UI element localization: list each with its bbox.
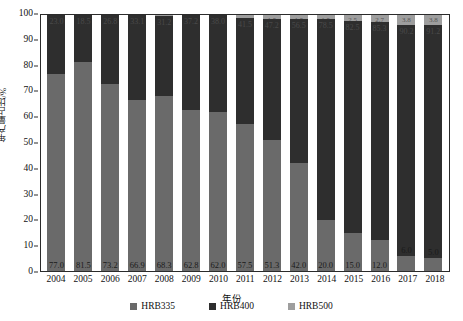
x-tick-label-2004: 2004 — [47, 274, 65, 290]
bar-segment-HRB400-2014: 78.5 — [317, 19, 335, 220]
bar-segment-HRB400-2005: 18.5 — [74, 15, 92, 62]
bar-value-label-HRB400-2010: 38.0 — [211, 18, 225, 26]
legend-item-HRB400[interactable]: HRB400 — [209, 301, 254, 311]
bar-value-label-HRB400-2008: 31.2 — [157, 19, 171, 27]
y-tick-label-60: 60 — [24, 112, 34, 122]
bar-value-label-HRB400-2011: 41.5 — [238, 21, 252, 29]
bar-segment-HRB335-2016: 12.0 — [371, 240, 389, 271]
legend-item-HRB335[interactable]: HRB335 — [130, 301, 175, 311]
bar-value-label-HRB400-2012: 47.2 — [265, 22, 279, 30]
bar-segment-HRB400-2018: 91.2 — [424, 25, 442, 258]
bar-value-label-HRB335-2018: 5.0 — [428, 248, 439, 256]
y-tick-mark-90 — [34, 39, 38, 40]
x-tick-label-2006: 2006 — [101, 274, 119, 290]
legend-swatch-icon-HRB335 — [130, 303, 137, 310]
y-tick-mark-0 — [34, 272, 38, 273]
x-tick-label-2016: 2016 — [371, 274, 389, 290]
y-tick-mark-100 — [34, 14, 38, 15]
bar-column-2014[interactable]: 1.578.520.0 — [317, 15, 335, 271]
legend-label-HRB500: HRB500 — [299, 301, 333, 311]
bar-segment-HRB400-2008: 31.2 — [155, 16, 173, 96]
bar-segment-HRB400-2007: 33.1 — [128, 15, 146, 100]
bar-segment-HRB335-2006: 73.2 — [101, 84, 119, 271]
bar-value-label-HRB335-2015: 15.0 — [345, 261, 360, 269]
bar-segment-HRB400-2006: 26.8 — [101, 15, 119, 84]
bar-segment-HRB400-2017: 90.2 — [397, 25, 415, 256]
y-tick-mark-10 — [34, 246, 38, 247]
x-axis-ticks: 2004200520062007200820092010201120122013… — [40, 274, 450, 290]
bar-segment-HRB400-2011: 41.5 — [236, 18, 254, 124]
x-tick-label-2010: 2010 — [209, 274, 227, 290]
y-tick-label-30: 30 — [24, 190, 34, 200]
bar-column-2005[interactable]: 018.581.5 — [74, 15, 92, 271]
x-tick-label-2015: 2015 — [344, 274, 362, 290]
bar-column-2017[interactable]: 3.890.26.0 — [397, 15, 415, 271]
y-axis-ticks: 0102030405060708090100 — [0, 14, 38, 272]
bar-segment-HRB400-2015: 82.5 — [344, 21, 362, 232]
y-tick-mark-80 — [34, 65, 38, 66]
bar-value-label-HRB400-2004: 23.0 — [49, 18, 63, 26]
bar-value-label-HRB400-2009: 37.2 — [184, 18, 198, 26]
x-tick-label-2018: 2018 — [425, 274, 443, 290]
bar-value-label-HRB335-2006: 73.2 — [103, 261, 118, 269]
bar-column-2008[interactable]: 0.531.268.3 — [155, 15, 173, 271]
bar-value-label-HRB335-2016: 12.0 — [372, 261, 387, 269]
bar-segment-HRB335-2017: 6.0 — [397, 256, 415, 271]
bar-column-2010[interactable]: 038.062.0 — [209, 15, 227, 271]
y-tick-label-80: 80 — [24, 61, 34, 71]
bar-segment-HRB335-2005: 81.5 — [74, 62, 92, 271]
legend-label-HRB335: HRB335 — [141, 301, 175, 311]
bar-segment-HRB500-2016: 2.7 — [371, 15, 389, 22]
y-tick-label-10: 10 — [24, 241, 34, 251]
x-tick-label-2009: 2009 — [182, 274, 200, 290]
legend-swatch-icon-HRB400 — [209, 303, 216, 310]
y-tick-label-100: 100 — [19, 9, 33, 19]
bar-segment-HRB335-2004: 77.0 — [47, 74, 65, 271]
bar-value-label-HRB400-2007: 33.1 — [130, 18, 144, 26]
bar-segment-HRB400-2016: 85.3 — [371, 22, 389, 240]
bar-value-label-HRB400-2013: 56.5 — [292, 22, 306, 30]
bar-column-2004[interactable]: 023.077.0 — [47, 15, 65, 271]
bar-segment-HRB400-2012: 47.2 — [263, 19, 281, 140]
x-tick-label-2017: 2017 — [398, 274, 416, 290]
bar-column-2016[interactable]: 2.785.312.0 — [371, 15, 389, 271]
bar-column-2009[interactable]: 037.262.8 — [182, 15, 200, 271]
plot-area: 023.077.0018.581.5026.873.2033.166.90.53… — [40, 14, 450, 272]
y-tick-label-90: 90 — [24, 35, 34, 45]
bar-segment-HRB400-2010: 38.0 — [209, 15, 227, 112]
bar-column-2015[interactable]: 2.582.515.0 — [344, 15, 362, 271]
bar-value-label-HRB335-2013: 42.0 — [291, 261, 306, 269]
x-tick-label-2007: 2007 — [128, 274, 146, 290]
legend-item-HRB500[interactable]: HRB500 — [288, 301, 333, 311]
x-tick-label-2011: 2011 — [236, 274, 254, 290]
bar-column-2007[interactable]: 033.166.9 — [128, 15, 146, 271]
bar-column-2011[interactable]: 1.041.557.5 — [236, 15, 254, 271]
bar-segment-HRB500-2018: 3.8 — [424, 15, 442, 25]
bar-value-label-HRB335-2005: 81.5 — [76, 261, 91, 269]
bar-value-label-HRB400-2015: 82.5 — [346, 24, 360, 32]
bar-value-label-HRB335-2008: 68.3 — [157, 261, 172, 269]
bar-column-2006[interactable]: 026.873.2 — [101, 15, 119, 271]
bar-column-2013[interactable]: 1.556.542.0 — [290, 15, 308, 271]
y-tick-mark-40 — [34, 168, 38, 169]
bar-group: 023.077.0018.581.5026.873.2033.166.90.53… — [41, 15, 449, 271]
bar-value-label-HRB335-2011: 57.5 — [237, 261, 252, 269]
bar-value-label-HRB335-2009: 62.8 — [184, 261, 199, 269]
y-tick-mark-50 — [34, 143, 38, 144]
bar-segment-HRB335-2015: 15.0 — [344, 233, 362, 271]
stacked-bar-chart: 年产量占比/% 0102030405060708090100 023.077.0… — [0, 0, 463, 321]
y-tick-mark-20 — [34, 220, 38, 221]
bar-segment-HRB500-2017: 3.8 — [397, 15, 415, 25]
bar-segment-HRB335-2011: 57.5 — [236, 124, 254, 271]
bar-column-2012[interactable]: 1.547.251.3 — [263, 15, 281, 271]
y-tick-mark-30 — [34, 194, 38, 195]
bar-segment-HRB335-2018: 5.0 — [424, 258, 442, 271]
bar-segment-HRB335-2012: 51.3 — [263, 140, 281, 271]
x-tick-label-2012: 2012 — [263, 274, 281, 290]
bar-column-2018[interactable]: 3.891.25.0 — [424, 15, 442, 271]
legend-swatch-icon-HRB500 — [288, 303, 295, 310]
bar-value-label-HRB400-2016: 85.3 — [373, 25, 387, 33]
bar-value-label-HRB335-2014: 20.0 — [318, 261, 333, 269]
bar-value-label-HRB335-2007: 66.9 — [130, 261, 145, 269]
y-tick-mark-70 — [34, 91, 38, 92]
